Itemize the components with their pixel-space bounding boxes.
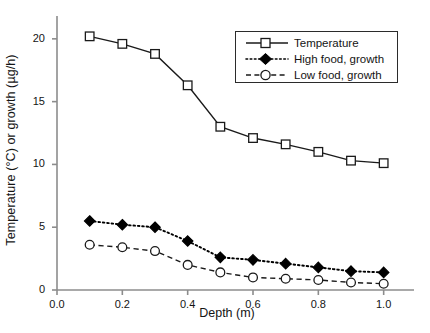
data-point-marker xyxy=(313,262,323,272)
data-point-marker xyxy=(216,122,225,131)
data-point-marker xyxy=(248,255,258,265)
legend-swatch-high-food xyxy=(244,52,290,66)
legend-swatch-temperature xyxy=(244,36,290,50)
data-point-marker xyxy=(379,159,388,168)
data-point-marker xyxy=(84,216,94,226)
data-point-marker xyxy=(183,81,192,90)
legend-label-high-food: High food, growth xyxy=(294,53,384,65)
chart-figure: Temperature (°C) or growth (µg/h) 051015… xyxy=(0,0,430,333)
data-point-marker xyxy=(346,266,356,276)
legend-label-temperature: Temperature xyxy=(294,37,359,49)
data-point-marker xyxy=(378,267,388,277)
legend-swatch-low-food xyxy=(244,68,290,82)
data-point-marker xyxy=(150,222,160,232)
data-point-marker xyxy=(379,279,388,288)
series-high-food-growth xyxy=(84,216,388,278)
data-point-marker xyxy=(118,40,127,49)
legend-item-temperature: Temperature xyxy=(244,35,359,51)
x-axis-label: Depth (m) xyxy=(57,306,397,320)
data-point-marker xyxy=(85,240,94,249)
legend-item-high-food: High food, growth xyxy=(244,51,384,67)
data-point-marker xyxy=(216,268,225,277)
data-point-marker xyxy=(314,276,323,285)
data-point-marker xyxy=(215,252,225,262)
data-point-marker xyxy=(281,274,290,283)
legend-label-low-food: Low food, growth xyxy=(294,69,382,81)
data-point-marker xyxy=(182,236,192,246)
legend-item-low-food: Low food, growth xyxy=(244,67,382,83)
data-point-marker xyxy=(117,219,127,229)
data-point-marker xyxy=(280,258,290,268)
data-point-marker xyxy=(151,247,160,256)
data-point-marker xyxy=(85,32,94,41)
data-point-marker xyxy=(281,140,290,149)
data-point-marker xyxy=(183,260,192,269)
data-point-marker xyxy=(314,148,323,157)
data-point-marker xyxy=(249,134,258,143)
data-point-marker xyxy=(151,50,160,59)
data-point-marker xyxy=(249,273,258,282)
data-point-marker xyxy=(347,278,356,287)
chart-legend: Temperature High food, growth Low food, … xyxy=(235,31,398,83)
data-point-marker xyxy=(118,243,127,252)
series-low-food-growth xyxy=(85,240,388,288)
data-point-marker xyxy=(347,156,356,165)
